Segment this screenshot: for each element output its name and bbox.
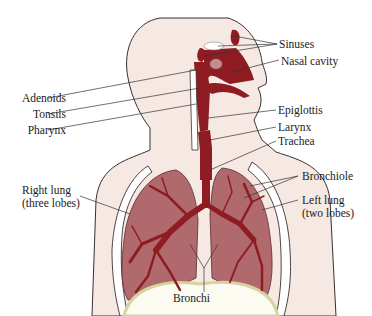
trachea: [200, 148, 212, 180]
label-right-lung: Right lung: [22, 184, 71, 196]
label-left-lung-lobes: (two lobes): [302, 207, 354, 219]
larynx-shape: [198, 130, 212, 150]
respiratory-diagram: Sinuses Nasal cavity Adenoids Tonsils Ph…: [0, 0, 372, 316]
anatomy-illustration: [0, 0, 372, 316]
label-larynx: Larynx: [278, 121, 311, 133]
label-pharynx: Pharynx: [0, 124, 66, 136]
label-bronchiole: Bronchiole: [302, 170, 353, 182]
label-adenoids: Adenoids: [0, 92, 66, 104]
label-sinuses: Sinuses: [279, 38, 314, 50]
label-left-lung: Left lung: [302, 194, 344, 206]
label-bronchi: Bronchi: [173, 292, 210, 304]
label-epiglottis: Epiglottis: [278, 104, 323, 116]
label-nasal-cavity: Nasal cavity: [281, 55, 338, 67]
label-trachea: Trachea: [278, 135, 315, 147]
label-tonsils: Tonsils: [0, 108, 66, 120]
label-right-lung-lobes: (three lobes): [22, 197, 80, 209]
